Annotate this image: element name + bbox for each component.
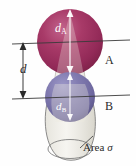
label-sigma-symbol: σ	[107, 141, 112, 153]
collision-cylinder-figure: dA dB d A B Area σ	[0, 0, 136, 166]
label-separation-d: d	[20, 62, 27, 75]
label-area-sigma: Area σ	[83, 142, 113, 153]
label-diameter-b-subscript: B	[62, 106, 67, 113]
label-diameter-a-subscript: A	[61, 27, 66, 36]
separation-arrowhead-bottom	[20, 91, 27, 99]
label-molecule-b: B	[105, 100, 113, 112]
label-diameter-b: dB	[56, 101, 66, 112]
label-diameter-a: dA	[55, 22, 66, 34]
label-molecule-a: A	[105, 54, 114, 66]
figure-canvas	[0, 0, 136, 166]
label-area-word: Area	[83, 141, 104, 153]
